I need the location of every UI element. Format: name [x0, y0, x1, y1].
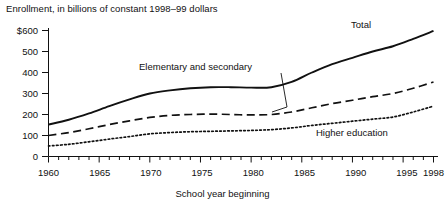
- elementary-and-secondary-leader-line: [272, 73, 287, 112]
- x-tick-label-1995: 1995: [396, 167, 417, 178]
- y-tick-label-100: 100: [22, 130, 38, 141]
- y-tick-label-300: 300: [22, 88, 38, 99]
- x-tick-label-1975: 1975: [192, 167, 213, 178]
- chart-plot-area: $600 500 400 300 200 100 0 1960 1965 197…: [0, 0, 445, 209]
- enrollment-line-chart: Enrollment, in billions of constant 1998…: [0, 0, 445, 209]
- y-tick-label-400: 400: [22, 67, 38, 78]
- y-axis-ticks: [42, 31, 49, 157]
- x-axis-tick-labels: 1960 1965 1970 1975 1980 1985 1990 1995 …: [38, 167, 444, 178]
- x-tick-label-1965: 1965: [89, 167, 110, 178]
- x-tick-label-1970: 1970: [140, 167, 161, 178]
- annotation-total: Total: [351, 19, 371, 30]
- x-tick-label-1985: 1985: [294, 167, 315, 178]
- series-line-total: [49, 31, 434, 125]
- y-tick-label-500: 500: [22, 46, 38, 57]
- x-tick-label-1960: 1960: [38, 167, 59, 178]
- annotation-elementary-and-secondary: Elementary and secondary: [139, 61, 252, 72]
- x-tick-label-1980: 1980: [243, 167, 264, 178]
- x-tick-label-1998: 1998: [423, 167, 444, 178]
- x-axis-ticks: [49, 157, 434, 163]
- annotation-higher-education: Higher education: [316, 127, 388, 138]
- y-tick-label-200: 200: [22, 109, 38, 120]
- y-tick-label-0: 0: [33, 151, 38, 162]
- x-tick-label-1990: 1990: [345, 167, 366, 178]
- x-axis-title: School year beginning: [0, 188, 445, 199]
- y-tick-label-600: $600: [17, 25, 38, 36]
- y-axis-tick-labels: $600 500 400 300 200 100 0: [17, 25, 38, 162]
